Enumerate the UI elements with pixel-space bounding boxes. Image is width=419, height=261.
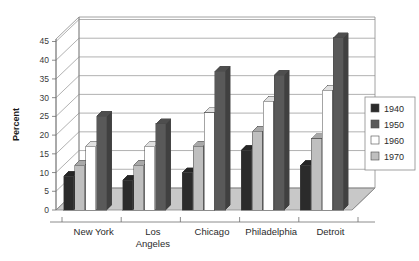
bar-front-face <box>182 173 192 210</box>
y-tick-label-0: 0 <box>44 205 49 215</box>
y-axis-title-text: Percent <box>11 108 21 141</box>
legend-swatch-1970 <box>371 152 379 160</box>
legend-label-1970: 1970 <box>384 152 404 162</box>
chart-canvas: 051015202530354045 New YorkLosAngelesChi… <box>0 0 419 261</box>
sidewall-line-30 <box>56 76 79 98</box>
y-tick-label-10: 10 <box>40 168 50 178</box>
y-tick-label-20: 20 <box>40 130 50 140</box>
sidewall-line-45 <box>56 19 79 41</box>
legend-swatch-1960 <box>371 136 379 144</box>
category-label-philadelphia: Philadelphia <box>245 226 297 237</box>
bar-new-york-1970 <box>97 111 112 210</box>
bar-front-face <box>145 146 155 210</box>
bar-side-face <box>225 66 230 210</box>
bar-front-face <box>123 180 133 210</box>
bar-side-face <box>284 70 289 210</box>
legend-label-1950: 1950 <box>384 120 404 130</box>
sidewall-line-20 <box>56 113 79 135</box>
bar-los-angeles-1970 <box>156 119 171 210</box>
bar-front-face <box>322 90 332 210</box>
bar-side-face <box>343 33 348 210</box>
legend-swatch-1950 <box>371 120 379 128</box>
x-axis <box>50 217 375 222</box>
y-tick-label-15: 15 <box>40 149 50 159</box>
y-tick-label-30: 30 <box>40 93 50 103</box>
sidewall-line-35 <box>56 57 79 79</box>
bar-chart: 051015202530354045 New YorkLosAngelesChi… <box>0 0 419 261</box>
y-tick-label-35: 35 <box>40 74 50 84</box>
category-label-chicago: Chicago <box>195 226 230 237</box>
y-tick-label-40: 40 <box>40 55 50 65</box>
bar-front-face <box>75 165 85 210</box>
y-tick-label-25: 25 <box>40 111 50 121</box>
bars-group <box>64 33 349 210</box>
bar-front-face <box>193 146 203 210</box>
bar-chicago-1970 <box>215 66 230 210</box>
bar-front-face <box>86 146 96 210</box>
chart-legend: 1940195019601970 <box>365 97 415 170</box>
bar-front-face <box>300 165 310 210</box>
bar-front-face <box>252 131 262 210</box>
category-label-new-york: New York <box>74 226 114 237</box>
bar-front-face <box>333 38 343 210</box>
y-tick-label-5: 5 <box>44 186 49 196</box>
bar-front-face <box>215 71 225 210</box>
bar-front-face <box>204 113 214 210</box>
bar-front-face <box>311 139 321 210</box>
sidewall-line-25 <box>56 94 79 116</box>
bar-front-face <box>156 124 166 210</box>
category-label-los: Los <box>145 226 161 237</box>
bar-front-face <box>274 75 284 210</box>
category-label-angeles: Angeles <box>136 238 171 249</box>
bar-side-face <box>107 111 112 210</box>
bar-side-face <box>166 119 171 210</box>
bar-front-face <box>97 116 107 210</box>
sidewall-line-40 <box>56 38 79 60</box>
bar-front-face <box>263 101 273 210</box>
legend-label-1960: 1960 <box>384 136 404 146</box>
sidewall-line-15 <box>56 132 79 154</box>
bar-philadelphia-1970 <box>274 70 289 210</box>
legend-swatch-1940 <box>371 104 379 112</box>
legend-label-1940: 1940 <box>384 104 404 114</box>
y-tick-label-45: 45 <box>40 36 50 46</box>
y-axis-title: Percent <box>11 108 21 141</box>
bar-front-face <box>241 150 251 210</box>
category-labels: New YorkLosAngelesChicagoPhiladelphiaDet… <box>74 226 345 249</box>
category-label-detroit: Detroit <box>316 226 344 237</box>
bar-front-face <box>134 165 144 210</box>
bar-front-face <box>64 176 74 210</box>
y-axis-ticks: 051015202530354045 <box>40 36 56 215</box>
bar-detroit-1970 <box>333 33 348 210</box>
